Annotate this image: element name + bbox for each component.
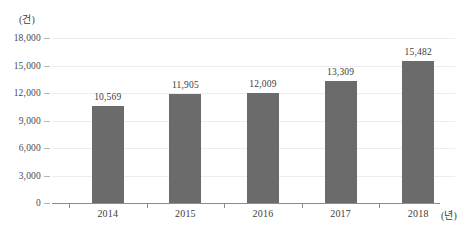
gridline [52, 38, 455, 39]
y-axis-tick-label: 15,000 [14, 61, 41, 71]
y-axis-tick [44, 176, 50, 177]
y-axis-tick-label: 18,000 [14, 33, 41, 43]
bar-chart: (건) (년) 03,0006,0009,00012,00015,00018,0… [0, 0, 473, 233]
y-axis-tick-label: 0 [36, 198, 41, 208]
y-axis-tick [44, 38, 50, 39]
bar-value-label: 15,482 [405, 47, 432, 57]
bar: 10,569 [92, 106, 124, 203]
bar: 13,309 [325, 81, 357, 203]
y-axis-tick [44, 203, 50, 204]
x-axis-category-label: 2015 [175, 208, 196, 219]
plot-area: 03,0006,0009,00012,00015,00018,000 10,56… [52, 38, 455, 203]
y-axis-tick [44, 121, 50, 122]
x-axis-category-label: 2014 [97, 208, 118, 219]
bar: 11,905 [169, 94, 201, 203]
y-axis-tick-label: 9,000 [19, 116, 41, 126]
x-axis-category-label: 2018 [408, 208, 429, 219]
bar-value-label: 11,905 [172, 80, 199, 90]
x-axis-category-label: 2017 [330, 208, 351, 219]
x-axis-category-label: 2016 [253, 208, 274, 219]
bar: 12,009 [247, 93, 279, 203]
bar-value-label: 12,009 [249, 79, 276, 89]
bar: 15,482 [402, 61, 434, 203]
y-axis-tick [44, 66, 50, 67]
y-axis-tick [44, 148, 50, 149]
gridline [52, 66, 455, 67]
bar-value-label: 13,309 [327, 67, 354, 77]
y-axis-tick-label: 3,000 [19, 171, 41, 181]
y-axis-tick-label: 6,000 [19, 143, 41, 153]
y-axis-unit-label: (건) [19, 11, 35, 26]
y-axis-tick-label: 12,000 [14, 88, 41, 98]
bar-value-label: 10,569 [94, 92, 121, 102]
x-axis-labels: 20142015201620172018 [52, 208, 455, 226]
y-axis-tick [44, 93, 50, 94]
